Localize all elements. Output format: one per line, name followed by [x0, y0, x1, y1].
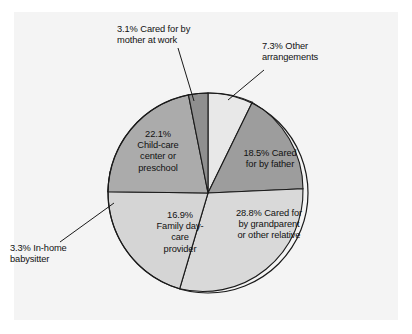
pie-label-other-arrangements: 7.3% Other arrangements [262, 41, 372, 64]
leader-line-other-arrangements [228, 70, 264, 100]
leader-line-mother-at-work [178, 48, 194, 101]
pie-label-cared-for-by-father: 18.5% Cared for by father [228, 148, 312, 170]
pie-label-child-care-center-or-preschool: 22.1% Child-care center or preschool [119, 129, 197, 174]
pie-chart-figure: 3.1% Cared for by mother at work 7.3% Ot… [0, 0, 412, 334]
pie-label-in-home-babysitter: 3.3% In-home babysitter [10, 243, 120, 266]
pie-label-grandparent-or-relative: 28.8% Cared for by grandparent or other … [219, 208, 319, 242]
pie-label-family-day-care-provider: 16.9% Family day- care provider [146, 210, 214, 255]
leader-line-in-home-babysitter [60, 203, 114, 242]
pie-label-cared-for-by-mother-at-work: 3.1% Cared for by mother at work [117, 24, 241, 47]
